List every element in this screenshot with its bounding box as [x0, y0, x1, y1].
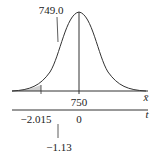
xbar-center-tick-label: 750: [71, 96, 88, 108]
t-axis-label: t: [145, 108, 149, 120]
sample-mean-leader: [57, 17, 58, 42]
sample-mean-label: 749.0: [39, 4, 64, 16]
t-critical-tick-label: −2.015: [21, 113, 52, 125]
rejection-region-shade: [12, 85, 41, 91]
diagram-canvas: 749.0 750 x̄ −2.015 0 t −1.13: [0, 0, 157, 157]
normal-curve-diagram: 749.0 750 x̄ −2.015 0 t −1.13: [0, 0, 157, 157]
t-center-tick-label: 0: [76, 113, 82, 125]
xbar-axis-label: x̄: [143, 91, 149, 103]
test-statistic-label: −1.13: [46, 141, 72, 153]
